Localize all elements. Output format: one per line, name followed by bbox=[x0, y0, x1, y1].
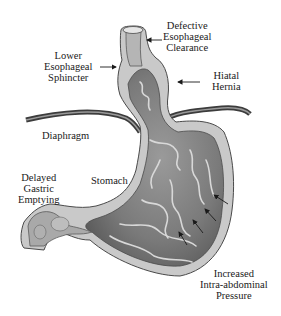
label-line: Gastric bbox=[18, 183, 59, 194]
label-defective-esophageal-clearance: Defective Esophageal Clearance bbox=[163, 20, 211, 53]
label-line: Esophageal bbox=[44, 61, 92, 72]
label-line: Emptying bbox=[18, 194, 59, 205]
label-line: Pressure bbox=[200, 290, 268, 301]
label-line: Delayed bbox=[18, 172, 59, 183]
label-line: Clearance bbox=[163, 42, 211, 53]
label-lower-esophageal-sphincter: Lower Esophageal Sphincter bbox=[44, 50, 92, 83]
label-line: Hernia bbox=[212, 81, 241, 92]
label-line: Esophageal bbox=[163, 31, 211, 42]
label-increased-intra-abdominal-pressure: Increased Intra-abdominal Pressure bbox=[200, 268, 268, 301]
label-hiatal-hernia: Hiatal Hernia bbox=[212, 70, 241, 92]
label-stomach: Stomach bbox=[91, 175, 128, 186]
label-line: Sphincter bbox=[44, 72, 92, 83]
label-line: Increased bbox=[200, 268, 268, 279]
label-diaphragm: Diaphragm bbox=[42, 130, 89, 141]
label-line: Stomach bbox=[91, 175, 128, 186]
label-line: Hiatal bbox=[212, 70, 241, 81]
label-line: Defective bbox=[163, 20, 211, 31]
label-line: Lower bbox=[44, 50, 92, 61]
label-delayed-gastric-emptying: Delayed Gastric Emptying bbox=[18, 172, 59, 205]
label-line: Diaphragm bbox=[42, 130, 89, 141]
label-line: Intra-abdominal bbox=[200, 279, 268, 290]
